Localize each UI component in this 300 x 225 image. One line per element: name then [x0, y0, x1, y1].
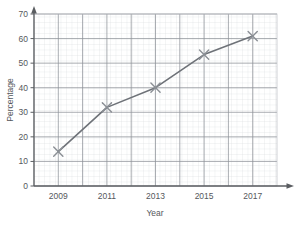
y-axis-ticks: 010203040506070 [19, 9, 34, 191]
x-tick-label: 2017 [243, 191, 262, 201]
y-tick-label: 0 [23, 181, 28, 191]
x-axis-arrow [287, 183, 295, 189]
line-chart: 010203040506070 20092011201320152017 Yea… [0, 0, 300, 225]
y-tick-label: 70 [19, 9, 29, 19]
x-tick-label: 2013 [146, 191, 165, 201]
x-tick-label: 2009 [49, 191, 68, 201]
y-tick-label: 30 [19, 107, 29, 117]
x-tick-label: 2011 [98, 191, 117, 201]
y-tick-label: 10 [19, 156, 29, 166]
y-axis-arrow [31, 6, 37, 14]
y-tick-label: 50 [19, 58, 29, 68]
y-tick-label: 20 [19, 132, 29, 142]
x-axis-title: Year [146, 208, 163, 218]
x-axis-ticks: 20092011201320152017 [49, 191, 263, 201]
y-tick-label: 40 [19, 83, 29, 93]
y-tick-label: 60 [19, 34, 29, 44]
y-axis-title: Percentage [5, 78, 15, 122]
chart-canvas: 010203040506070 20092011201320152017 Yea… [0, 0, 300, 225]
x-tick-label: 2015 [195, 191, 214, 201]
